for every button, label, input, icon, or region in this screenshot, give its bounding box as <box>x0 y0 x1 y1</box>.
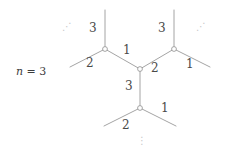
label-bot-downleft: 2 <box>122 119 130 131</box>
vertex-upper-right <box>172 47 177 52</box>
vertex-upper-left <box>103 47 108 52</box>
vertex-center <box>138 67 143 72</box>
caption-relation: = <box>23 65 39 78</box>
label-ul-center: 1 <box>123 44 131 56</box>
ellipsis-bottom: ⋮ <box>137 136 147 146</box>
label-ur-center: 2 <box>151 62 159 74</box>
caption-value: 3 <box>39 65 46 78</box>
label-ur-up: 3 <box>158 22 166 34</box>
label-center-down: 3 <box>125 80 133 92</box>
label-ul-up: 3 <box>89 22 97 34</box>
vertex-bottom <box>138 106 143 111</box>
figure-container: 312321321 ⋰⋰⋮ n = 3 <box>0 0 225 153</box>
ellipsis-upper-left: ⋰ <box>62 22 72 32</box>
label-ur-downright: 1 <box>186 58 194 70</box>
edge-bot-downright <box>140 108 176 126</box>
ellipsis-upper-right: ⋰ <box>196 22 206 32</box>
caption-n-equals-3: n = 3 <box>16 66 46 77</box>
label-bot-downright: 1 <box>161 102 169 114</box>
label-ul-downleft: 2 <box>86 57 94 69</box>
